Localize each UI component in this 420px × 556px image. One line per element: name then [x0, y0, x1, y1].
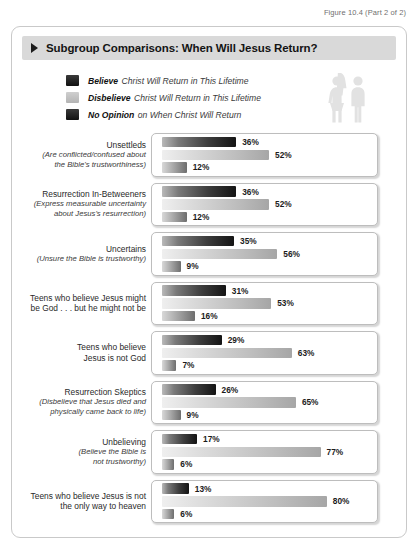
bar-dark [162, 285, 226, 296]
legend-swatch-believe [66, 75, 79, 86]
bar-none [162, 311, 195, 322]
bar-light [162, 298, 271, 309]
bar-dark [162, 384, 216, 395]
row-bars: 17%77%6% [162, 427, 368, 477]
bar-none [162, 261, 181, 272]
row-bars: 31%53%16% [162, 279, 368, 329]
row-label-line: Uncertains [106, 244, 146, 254]
bar-value-label: 26% [222, 385, 239, 395]
row-label-line: Teens who believe [77, 342, 146, 352]
row-sublabel-line: (Express measurable uncertainty [34, 199, 146, 209]
bar-line: 12% [162, 212, 368, 223]
legend-label-rest: Christ Will Return in This Lifetime [134, 93, 261, 103]
bar-line: 36% [162, 137, 368, 148]
bar-light [162, 496, 327, 507]
bar-none [162, 212, 187, 223]
legend-item-disbelieve: Disbelieve Christ Will Return in This Li… [66, 91, 261, 104]
row-label-line: Teens who believe Jesus is not [31, 491, 146, 501]
female-figure-icon [328, 73, 346, 123]
bar-line: 12% [162, 162, 368, 173]
row-bars: 13%80%6% [162, 477, 368, 527]
bar-value-label: 65% [302, 397, 319, 407]
row-sublabel-line: not trustworthy) [93, 457, 146, 467]
bar-dark [162, 236, 234, 247]
bar-value-label: 52% [275, 199, 292, 209]
row-label: Resurrection Skeptics(Disbelieve that Je… [18, 378, 146, 428]
bar-none [162, 162, 187, 173]
bar-line: 77% [162, 447, 368, 458]
row-label: Uncertains(Unsure the Bible is trustwort… [18, 229, 146, 279]
bar-line: 9% [162, 410, 368, 421]
legend-label-strong: No Opinion [88, 110, 134, 120]
figure-title-bar: Subgroup Comparisons: When Will Jesus Re… [22, 36, 396, 60]
chart-row: Uncertains(Unsure the Bible is trustwort… [12, 229, 406, 279]
row-sublabel-line: (Are conflicted/confused about [42, 150, 146, 160]
chart-row: Resurrection In-Betweeners(Express measu… [12, 180, 406, 230]
people-icons [326, 73, 370, 123]
male-figure-icon [351, 76, 364, 122]
row-bars: 36%52%12% [162, 180, 368, 230]
figure-card: Subgroup Comparisons: When Will Jesus Re… [11, 26, 407, 538]
row-bars: 26%65%9% [162, 378, 368, 428]
bar-value-label: 16% [201, 311, 218, 321]
row-bars: 29%63%7% [162, 328, 368, 378]
bar-none [162, 360, 176, 371]
bar-dark [162, 483, 189, 494]
bar-light [162, 150, 269, 161]
chart-row: Unsettleds(Are conflicted/confused about… [12, 130, 406, 180]
row-sublabel-line: the Bible's trustworthiness) [54, 160, 146, 170]
bar-line: 52% [162, 150, 368, 161]
chart-row: Teens who believe Jesus is notthe only w… [12, 477, 406, 527]
bar-dark [162, 186, 236, 197]
row-label: Resurrection In-Betweeners(Express measu… [18, 180, 146, 230]
bar-light [162, 447, 321, 458]
bar-light [162, 199, 269, 210]
bar-value-label: 13% [195, 484, 212, 494]
bar-value-label: 6% [180, 459, 192, 469]
row-label-line: Resurrection Skeptics [65, 387, 146, 397]
bar-line: 29% [162, 335, 368, 346]
bar-line: 63% [162, 348, 368, 359]
bar-line: 56% [162, 249, 368, 260]
row-label-line: be God . . . but he might not be [31, 303, 146, 313]
bar-none [162, 410, 181, 421]
bar-line: 36% [162, 186, 368, 197]
chart-row: Teens who believeJesus is not God29%63%7… [12, 328, 406, 378]
bar-light [162, 249, 277, 260]
bar-line: 31% [162, 285, 368, 296]
bar-value-label: 9% [187, 410, 199, 420]
legend-swatch-no-opinion [66, 109, 79, 120]
row-bars: 36%52%12% [162, 130, 368, 180]
bar-line: 9% [162, 261, 368, 272]
row-label-line: the only way to heaven [60, 501, 146, 511]
bar-none [162, 459, 174, 470]
bar-value-label: 63% [298, 348, 315, 358]
bar-value-label: 52% [275, 150, 292, 160]
row-label-line: Resurrection In-Betweeners [42, 189, 146, 199]
row-label: Teens who believe Jesus mightbe God . . … [18, 279, 146, 329]
bar-value-label: 12% [193, 162, 210, 172]
bar-value-label: 56% [283, 249, 300, 259]
row-sublabel-line: (Disbelieve that Jesus died and [39, 397, 146, 407]
bar-value-label: 80% [333, 496, 350, 506]
triangle-bullet-icon [31, 43, 38, 53]
bar-value-label: 77% [327, 447, 344, 457]
legend-item-believe: Believe Christ Will Return in This Lifet… [66, 74, 249, 87]
chart-row: Teens who believe Jesus mightbe God . . … [12, 279, 406, 329]
bar-value-label: 31% [232, 286, 249, 296]
bar-value-label: 17% [203, 434, 220, 444]
legend-label-rest: on When Christ Will Return [138, 110, 242, 120]
bar-line: 17% [162, 434, 368, 445]
row-sublabel-line: (Unsure the Bible is trustworthy) [37, 254, 146, 264]
bar-line: 52% [162, 199, 368, 210]
bar-dark [162, 434, 197, 445]
row-sublabel-line: about Jesus's resurrection) [54, 209, 146, 219]
figure-caption: Figure 10.4 (Part 2 of 2) [324, 8, 406, 17]
bar-light [162, 348, 292, 359]
figure-page: Figure 10.4 (Part 2 of 2) Subgroup Compa… [0, 0, 420, 556]
bar-value-label: 7% [182, 360, 194, 370]
bar-line: 6% [162, 459, 368, 470]
bar-value-label: 35% [240, 236, 257, 246]
row-label: Teens who believe Jesus is notthe only w… [18, 477, 146, 527]
bar-value-label: 12% [193, 212, 210, 222]
